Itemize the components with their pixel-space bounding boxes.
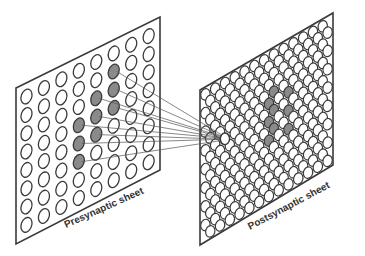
projection-diagram: Presynaptic sheet Postsynaptic sheet (0, 0, 365, 256)
diagram-stage: Presynaptic sheet Postsynaptic sheet (0, 0, 365, 256)
target-postsynaptic-neuron (220, 133, 229, 145)
